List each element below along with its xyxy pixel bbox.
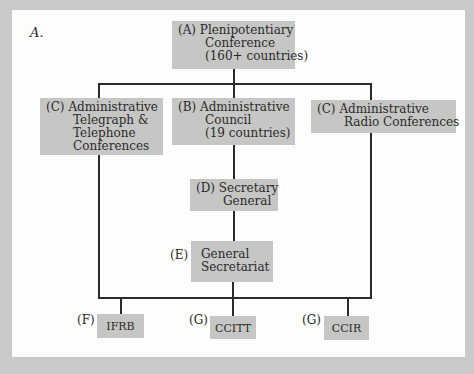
figure-label: A. bbox=[30, 25, 44, 40]
node-secretary-general: (D) Secretary General bbox=[190, 179, 278, 211]
node-text: (19 countries) bbox=[178, 127, 289, 140]
connector-bus-cleft bbox=[98, 83, 100, 98]
connector-cleft-down bbox=[98, 155, 100, 298]
node-text: Administrative bbox=[68, 100, 158, 114]
node-plenipotentiary-conference: (A) Plenipotentiary Conference (160+ cou… bbox=[172, 21, 295, 69]
node-text: Radio Conferences bbox=[317, 116, 450, 129]
node-text: CCIR bbox=[324, 322, 369, 335]
node-text: Secretariat bbox=[201, 261, 263, 274]
node-tag: (A) bbox=[178, 23, 196, 37]
connector-bottom-bus bbox=[98, 297, 372, 299]
node-text: Administrative bbox=[339, 102, 429, 116]
node-ccir: CCIR bbox=[324, 316, 369, 340]
node-tag-f: (F) bbox=[77, 313, 95, 327]
node-ifrb: IFRB bbox=[97, 314, 144, 338]
node-tag: (D) bbox=[196, 181, 215, 195]
node-tag: (B) bbox=[178, 100, 196, 114]
node-text: Administrative bbox=[200, 100, 290, 114]
node-tag: (C) bbox=[46, 100, 65, 114]
node-text: IFRB bbox=[97, 320, 144, 333]
node-admin-telegraph-telephone-conferences: (C) Administrative Telegraph & Telephone… bbox=[40, 98, 163, 155]
node-tag-g-ccitt: (G) bbox=[189, 313, 208, 327]
connector-b-d bbox=[233, 145, 235, 179]
connector-top-bus bbox=[98, 83, 371, 85]
node-text: CCITT bbox=[210, 322, 256, 335]
connector-cright-down bbox=[370, 133, 372, 298]
node-text: Secretary bbox=[219, 181, 278, 195]
node-text: Plenipotentiary bbox=[200, 23, 293, 37]
connector-e-down bbox=[232, 282, 234, 316]
node-administrative-council: (B) Administrative Council (19 countries… bbox=[172, 98, 295, 145]
node-tag: (C) bbox=[317, 102, 336, 116]
node-tag-g-ccir: (G) bbox=[302, 313, 321, 327]
node-general-secretariat: General Secretariat bbox=[191, 241, 273, 282]
connector-bus-g2 bbox=[347, 297, 349, 316]
connector-bus-f bbox=[120, 297, 122, 314]
node-text: General bbox=[196, 195, 272, 208]
node-tag-e: (E) bbox=[170, 248, 188, 262]
node-admin-radio-conferences: (C) Administrative Radio Conferences bbox=[311, 100, 456, 133]
connector-bus-cright bbox=[370, 83, 372, 100]
node-ccitt: CCITT bbox=[210, 316, 256, 339]
connector-d-e bbox=[233, 211, 235, 241]
node-text: Conferences bbox=[46, 140, 157, 153]
node-text: (160+ countries) bbox=[178, 50, 289, 63]
